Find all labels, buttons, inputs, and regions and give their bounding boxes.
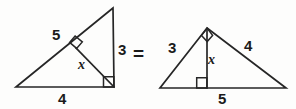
left-triangle-group xyxy=(16,8,114,87)
right-triangle-group xyxy=(160,28,286,88)
geometry-figure: 5 3 x 4 = 3 4 x 5 xyxy=(0,0,296,109)
right-triangle-left-leg-label: 3 xyxy=(168,40,176,55)
left-triangle-vertical-leg-label: 3 xyxy=(118,42,126,57)
right-right-angle-mark-base xyxy=(197,78,207,88)
left-triangle-base-label: 4 xyxy=(58,91,66,106)
left-triangle-hypotenuse-label: 5 xyxy=(52,27,60,42)
left-triangle-altitude-label: x xyxy=(78,58,85,72)
right-triangle-altitude-label: x xyxy=(208,53,215,67)
right-triangle-base-label: 5 xyxy=(218,91,226,106)
right-triangle-outline xyxy=(160,28,286,88)
left-triangle-outline xyxy=(16,8,114,87)
triangle-diagram-canvas xyxy=(0,0,296,109)
equals-sign: = xyxy=(133,44,144,63)
right-triangle-right-leg-label: 4 xyxy=(244,38,252,53)
